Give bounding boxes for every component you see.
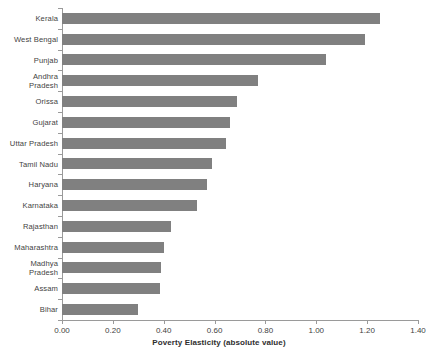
x-axis-tick-label: 0.40 — [156, 326, 172, 335]
x-axis-ticks: 0.000.200.400.600.801.001.201.40 — [62, 320, 419, 326]
x-axis-tick-label: 0.00 — [54, 326, 70, 335]
bar — [62, 34, 365, 45]
bar — [62, 138, 226, 149]
y-axis-tick — [58, 154, 62, 155]
category-label: Kerala — [0, 14, 58, 23]
bar-row — [62, 195, 418, 216]
bar-row — [62, 278, 418, 299]
bar-row — [62, 133, 418, 154]
bar — [62, 54, 326, 65]
plot-area — [62, 8, 418, 320]
y-axis-tick — [58, 29, 62, 30]
x-axis-tick — [62, 320, 63, 324]
bar — [62, 75, 258, 86]
bar-row — [62, 8, 418, 29]
bar — [62, 283, 160, 294]
category-label: Karnataka — [0, 201, 58, 210]
x-axis-tick-label: 0.60 — [207, 326, 223, 335]
bar-row — [62, 174, 418, 195]
x-axis-tick — [265, 320, 266, 324]
y-axis-tick — [58, 8, 62, 9]
bar-row — [62, 112, 418, 133]
category-label: Assam — [0, 284, 58, 293]
category-label: West Bengal — [0, 35, 58, 44]
x-axis-tick — [316, 320, 317, 324]
x-axis-tick — [113, 320, 114, 324]
x-axis-tick — [215, 320, 216, 324]
bar — [62, 221, 171, 232]
x-axis-tick-label: 1.20 — [359, 326, 375, 335]
y-axis-tick — [58, 112, 62, 113]
category-label: Orissa — [0, 97, 58, 106]
y-axis-tick — [58, 50, 62, 51]
category-label: Haryana — [0, 180, 58, 189]
x-axis-tick — [164, 320, 165, 324]
bar-row — [62, 299, 418, 320]
poverty-elasticity-bar-chart: KeralaWest BengalPunjabAndhra PradeshOri… — [0, 0, 438, 354]
y-axis-tick — [58, 133, 62, 134]
category-label: Punjab — [0, 56, 58, 65]
bar — [62, 96, 237, 107]
category-label: Tamil Nadu — [0, 160, 58, 169]
bar-row — [62, 258, 418, 279]
bar — [62, 13, 380, 24]
y-axis-tick — [58, 91, 62, 92]
category-label: Gujarat — [0, 118, 58, 127]
y-axis-tick — [58, 195, 62, 196]
bar-row — [62, 154, 418, 175]
category-label: Bihar — [0, 305, 58, 314]
bar — [62, 242, 164, 253]
x-axis-tick-label: 1.40 — [410, 326, 426, 335]
bar — [62, 117, 230, 128]
bar-rows — [62, 8, 418, 320]
bar-row — [62, 70, 418, 91]
y-axis-tick — [58, 258, 62, 259]
category-label: Uttar Pradesh — [0, 139, 58, 148]
bar — [62, 304, 138, 315]
y-axis-tick — [58, 299, 62, 300]
x-axis-tick-label: 1.00 — [308, 326, 324, 335]
x-axis-tick-label: 0.20 — [105, 326, 121, 335]
category-label: Andhra Pradesh — [0, 72, 58, 90]
bar-row — [62, 216, 418, 237]
bar-row — [62, 237, 418, 258]
category-label: Rajasthan — [0, 222, 58, 231]
x-axis-tick-label: 0.80 — [258, 326, 274, 335]
bar — [62, 200, 197, 211]
bar — [62, 158, 212, 169]
x-axis-title: Poverty Elasticity (absolute value) — [0, 338, 438, 347]
bar — [62, 179, 207, 190]
bar-row — [62, 29, 418, 50]
x-axis-tick — [418, 320, 419, 324]
y-axis-tick — [58, 278, 62, 279]
y-axis-tick — [58, 216, 62, 217]
x-axis-tick — [367, 320, 368, 324]
bar-row — [62, 91, 418, 112]
bar — [62, 262, 161, 273]
y-axis-tick — [58, 174, 62, 175]
category-label: Madhya Pradesh — [0, 259, 58, 277]
y-axis-tick — [58, 237, 62, 238]
category-label: Maharashtra — [0, 243, 58, 252]
y-axis-tick — [58, 70, 62, 71]
category-axis-labels: KeralaWest BengalPunjabAndhra PradeshOri… — [0, 8, 58, 320]
bar-row — [62, 50, 418, 71]
